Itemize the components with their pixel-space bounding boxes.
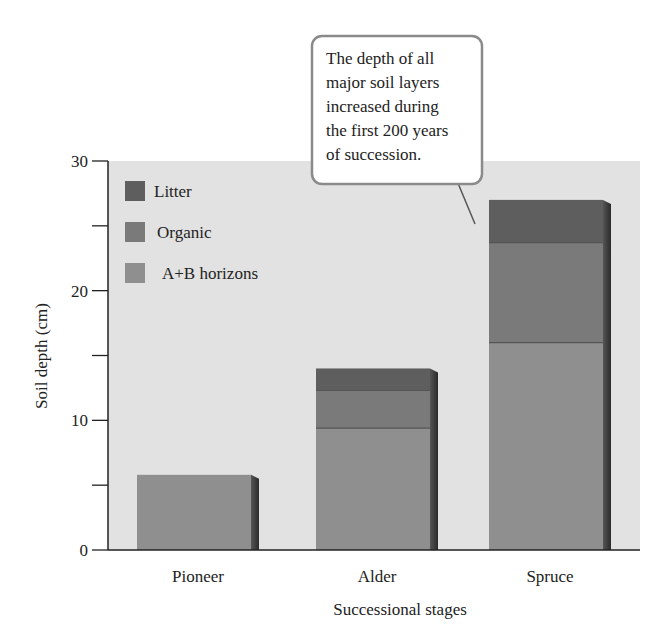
bar-alder	[316, 368, 438, 550]
bar-segment-a-b-horizons	[137, 475, 251, 550]
x-axis-title: Successional stages	[333, 600, 467, 619]
y-ticks: 0102030	[71, 152, 108, 560]
bar-spruce	[489, 200, 611, 550]
soil-depth-chart: 0102030 Soil depth (cm) Successional sta…	[0, 0, 664, 644]
y-tick-label: 20	[71, 282, 88, 301]
bar-segment-a-b-horizons	[489, 343, 603, 550]
y-tick-label: 0	[80, 541, 89, 560]
legend-label: Litter	[154, 182, 192, 201]
bar-segment-a-b-horizons	[316, 428, 430, 550]
x-tick-label: Pioneer	[172, 567, 224, 586]
y-axis-title: Soil depth (cm)	[32, 303, 51, 409]
y-tick-label: 10	[71, 411, 88, 430]
bar-side-face	[251, 475, 259, 550]
legend-swatch	[125, 181, 145, 201]
bar-segment-litter	[316, 368, 430, 390]
legend-label: Organic	[157, 223, 212, 242]
bar-segment-litter	[489, 200, 603, 243]
legend-swatch	[125, 263, 145, 283]
bar-segment-organic	[489, 243, 603, 343]
x-tick-labels: PioneerAlderSpruce	[172, 567, 574, 586]
legend-swatch	[125, 222, 145, 242]
bar-segment-organic	[316, 391, 430, 429]
x-tick-label: Alder	[358, 567, 397, 586]
bar-side-face	[603, 200, 611, 550]
legend-label: A+B horizons	[162, 264, 258, 283]
x-tick-label: Spruce	[526, 567, 573, 586]
y-tick-label: 30	[71, 152, 88, 171]
bar-pioneer	[137, 475, 259, 550]
bar-side-face	[430, 368, 438, 550]
